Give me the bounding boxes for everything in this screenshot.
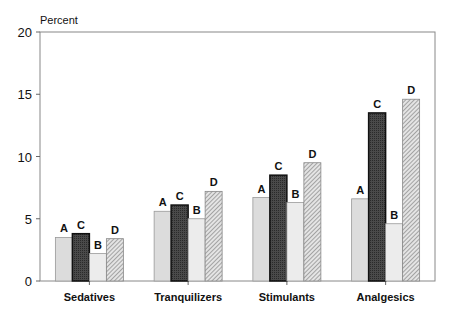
y-tick-label: 10 [18, 150, 32, 165]
bar-label: D [111, 224, 119, 236]
bar-label: A [159, 196, 167, 208]
bar-D [304, 163, 321, 281]
bar-label: B [193, 204, 201, 216]
bar-label: B [94, 239, 102, 251]
y-axis-label: Percent [40, 14, 78, 26]
bar-label: B [390, 209, 398, 221]
bar-label: A [356, 184, 364, 196]
bar-label: A [60, 222, 68, 234]
x-tick-label: Stimulants [259, 291, 315, 303]
bar-D [205, 191, 222, 281]
bar-A [253, 198, 270, 281]
bar-label: C [77, 219, 85, 231]
bar-label: C [373, 98, 381, 110]
chart-container: Percent05101520SedativesTranquilizersSti… [0, 0, 453, 319]
bar-label: A [257, 183, 265, 195]
bar-label: D [210, 176, 218, 188]
bar-D [106, 239, 123, 281]
x-tick-label: Analgesics [357, 291, 415, 303]
bar-B [89, 254, 106, 281]
bar-D [403, 99, 420, 281]
bar-chart: Percent05101520SedativesTranquilizersSti… [0, 0, 453, 319]
y-tick-label: 15 [18, 87, 32, 102]
y-tick-label: 5 [25, 212, 32, 227]
bar-label: C [274, 160, 282, 172]
bar-C [171, 205, 188, 281]
bar-A [154, 211, 171, 281]
bar-B [188, 219, 205, 281]
x-tick-label: Tranquilizers [154, 291, 222, 303]
bar-B [386, 224, 403, 281]
bar-label: D [308, 148, 316, 160]
bar-label: C [176, 190, 184, 202]
bar-C [369, 113, 386, 281]
bar-A [55, 237, 72, 281]
x-tick-label: Sedatives [64, 291, 115, 303]
bar-B [287, 203, 304, 281]
bar-label: B [291, 188, 299, 200]
bar-C [270, 175, 287, 281]
bar-label: D [407, 84, 415, 96]
bar-A [352, 199, 369, 281]
y-tick-label: 20 [18, 25, 32, 40]
y-tick-label: 0 [25, 274, 32, 289]
bar-C [72, 234, 89, 281]
